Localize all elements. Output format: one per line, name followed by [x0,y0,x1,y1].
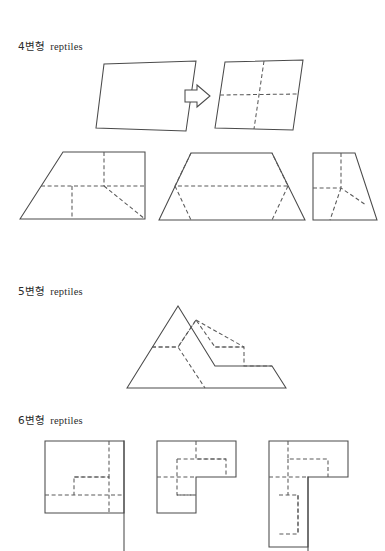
transformation-arrow-icon [185,85,210,107]
figure-hexagon-middle [157,441,236,513]
figure-pentagon-sphinx [127,306,286,388]
figure-parallelogram-divided [215,60,303,130]
geometry-figures [0,0,385,551]
figure-hexagon-left [45,441,124,551]
figure-isosceles-trapezoid [159,153,305,220]
figure-tall-right-trapezoid [313,153,377,220]
figure-parallelogram-undivided [96,61,196,131]
worksheet-page: 4변형reptiles 5변형reptiles 6변형reptiles [0,0,385,551]
figure-right-trapezoid [20,152,145,219]
figure-hexagon-right [269,441,348,551]
